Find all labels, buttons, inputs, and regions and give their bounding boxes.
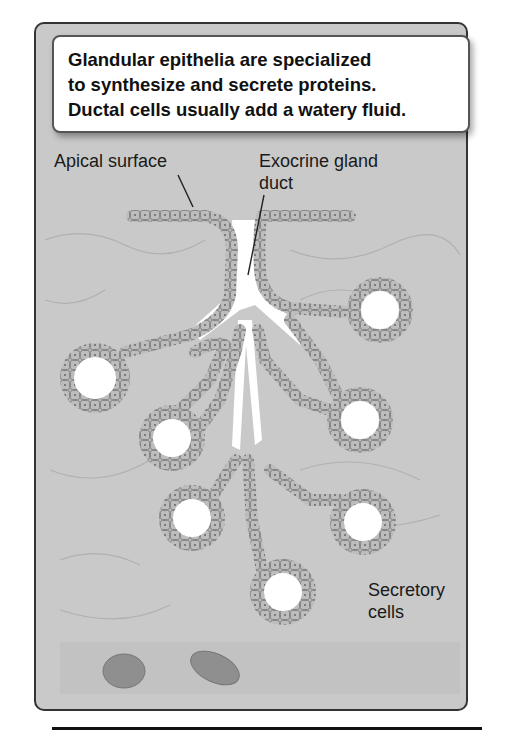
acinus	[354, 284, 406, 336]
callout-line: Ductal cells usually add a watery fluid.	[68, 97, 406, 122]
summary-callout: Glandular epithelia are specialized to s…	[52, 35, 470, 133]
secretory-cells-label-line1: Secretory	[368, 580, 445, 601]
acinus	[337, 496, 389, 548]
apical-surface-leader	[178, 175, 193, 207]
exocrine-duct-label-line2: duct	[259, 173, 293, 194]
callout-line: to synthesize and secrete proteins.	[68, 72, 406, 97]
red-blood-cell	[103, 654, 145, 688]
secretory-cells-label-line2: cells	[368, 602, 404, 623]
callout-text: Glandular epithelia are specialized to s…	[68, 47, 406, 122]
callout-line: Glandular epithelia are specialized	[68, 47, 406, 72]
acinus	[334, 394, 386, 446]
exocrine-duct-label-line1: Exocrine gland	[259, 151, 378, 172]
acinus	[166, 492, 218, 544]
acinus	[257, 566, 309, 618]
acinus	[146, 412, 198, 464]
apical-surface-label: Apical surface	[54, 151, 167, 172]
acinus	[67, 350, 123, 406]
